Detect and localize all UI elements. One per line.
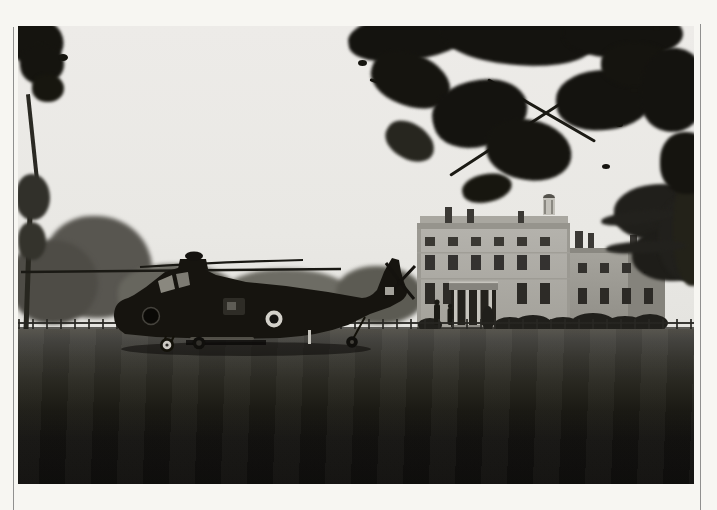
quoin	[567, 229, 570, 331]
string-course	[417, 278, 570, 280]
engine-intake	[144, 309, 158, 323]
leaf	[602, 164, 610, 169]
branch	[449, 59, 628, 177]
tail-flash	[385, 287, 394, 295]
marker-post	[308, 330, 311, 344]
left-keyline	[13, 27, 14, 510]
leaf	[653, 26, 660, 31]
leaf	[616, 122, 623, 127]
parapet	[417, 223, 570, 229]
roundel-centre	[269, 314, 278, 323]
postcard-print	[0, 0, 717, 510]
foliage-blob	[18, 41, 67, 87]
foliage-blob	[18, 174, 50, 220]
leaf	[630, 88, 638, 93]
string-course	[417, 252, 570, 254]
rotor-head	[178, 259, 208, 269]
foliage-blob	[345, 26, 474, 68]
branch	[487, 78, 596, 142]
right-keyline	[700, 24, 701, 510]
foliage-blob	[673, 174, 694, 286]
foliage-blob	[364, 42, 459, 119]
branch	[370, 78, 477, 115]
photograph	[18, 26, 694, 484]
tree-branch	[26, 94, 40, 190]
helicopter	[18, 247, 438, 356]
cabin-window	[227, 302, 236, 310]
foliage-blob	[425, 69, 535, 158]
foliage-blob	[481, 113, 576, 187]
foliage-blob	[563, 26, 683, 58]
foliage-blob	[440, 26, 596, 72]
foliage-blob	[601, 42, 673, 87]
leaf	[58, 54, 68, 61]
wing-parapet	[570, 248, 665, 253]
country-house	[413, 184, 668, 334]
foliage-blob	[554, 66, 655, 134]
leaf	[358, 60, 367, 66]
foliage-blob	[18, 26, 68, 70]
foliage-blob	[32, 74, 64, 102]
foliage-blob	[379, 113, 442, 169]
foliage-blob	[634, 44, 694, 137]
main-rotor-blade	[140, 260, 303, 267]
rotor-hub	[185, 252, 203, 261]
roof-lantern	[543, 194, 555, 215]
